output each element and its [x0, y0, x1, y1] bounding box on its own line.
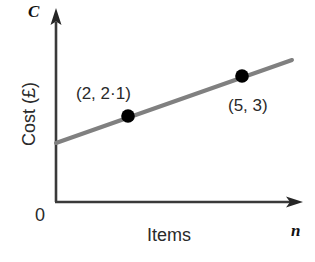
- x-axis-title: Items: [147, 226, 191, 244]
- origin-label: 0: [35, 206, 45, 224]
- cost-vs-items-chart: C n 0 Items Cost (£) (2, 2·1) (5, 3): [0, 0, 315, 262]
- data-point-label: (5, 3): [228, 97, 268, 114]
- chart-canvas: [0, 0, 315, 262]
- data-point-label: (2, 2·1): [76, 85, 131, 102]
- y-axis-symbol: C: [28, 3, 39, 20]
- y-axis-title: Cost (£): [20, 82, 38, 146]
- data-point: [121, 109, 135, 123]
- x-axis-symbol: n: [291, 222, 300, 239]
- data-point: [235, 69, 249, 83]
